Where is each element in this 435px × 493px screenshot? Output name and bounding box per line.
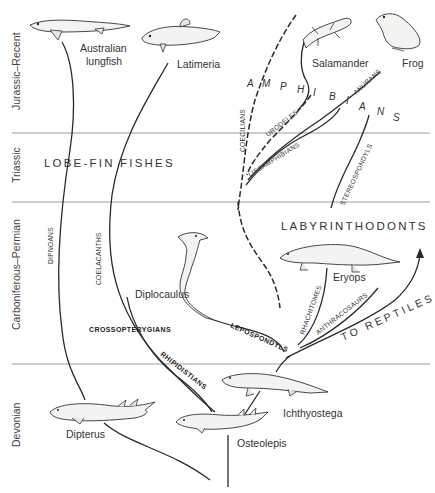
label-osteolepis: Osteolepis (237, 437, 287, 449)
label-coelacanths: COELACANTHS (95, 232, 102, 285)
diplocaulus-illustration (178, 233, 214, 320)
amphibians-letter: I (313, 87, 316, 98)
osteolepis-illustration (176, 408, 268, 433)
amphibians-letter: H (297, 84, 305, 95)
branch-coecilians (238, 15, 296, 210)
branch-salamander (298, 42, 309, 110)
label-diplocaulus: Diplocaulus (135, 288, 189, 300)
frog-illustration (376, 14, 420, 51)
amphibians-letter: A (358, 101, 366, 112)
label-dipterus: Dipterus (66, 428, 105, 440)
label-lepospondyls: LEPOSPONDYLS (230, 322, 290, 354)
arrow-head-icon (416, 248, 424, 258)
label-ichthyostega: Ichthyostega (283, 407, 343, 419)
amphibians-letter: P (280, 81, 287, 92)
amphibians-letter: B (329, 91, 336, 102)
era-label-triassic: Triassic (10, 147, 22, 183)
label-australian-lungfish-line1: Australian (80, 42, 127, 54)
amphibians-letter: N (377, 106, 385, 117)
label-salamander: Salamander (312, 57, 369, 69)
label-coecilians: COECILIANS (239, 109, 246, 152)
ichthyostega-illustration (222, 374, 328, 396)
branch-dipterus-root (104, 423, 210, 480)
label-lobe-fin-fishes: LOBE-FIN FISHES (44, 157, 175, 169)
label-dipnoans: DIPNOANS (47, 227, 54, 264)
dipterus-illustration (50, 399, 155, 424)
label-labyrinthodonts: LABYRINTHODONTS (281, 220, 428, 232)
label-eryops: Eryops (333, 271, 366, 283)
eryops-illustration (280, 245, 400, 272)
label-amphibians: A M P H I B I A N S (246, 78, 400, 123)
salamander-illustration (303, 18, 351, 48)
branch-dashed-lepospondyl (238, 202, 280, 308)
label-crossopterygians: CROSSOPTERYGIANS (89, 326, 171, 333)
label-rhipidistians: RHIPIDISTIANS (159, 350, 208, 390)
label-australian-lungfish-line2: lungfish (86, 55, 122, 67)
amphibians-letter: I (346, 95, 349, 106)
era-label-carboniferous-permian: Carboniferous–Permian (10, 219, 22, 330)
phylogeny-diagram: Jurassic–Recent Triassic Carboniferous–P… (0, 0, 435, 493)
australian-lungfish-illustration (30, 20, 130, 40)
latimeria-illustration (142, 19, 220, 52)
amphibians-letter: A (246, 78, 254, 89)
label-anurans: ANURANS (352, 67, 382, 95)
era-label-jurassic-recent: Jurassic–Recent (10, 32, 22, 110)
branch-dipnoans (59, 42, 85, 400)
label-latimeria: Latimeria (177, 58, 220, 70)
label-frog: Frog (402, 57, 424, 69)
era-label-devonian: Devonian (10, 402, 22, 447)
amphibians-letter: S (393, 112, 400, 123)
amphibians-letter: M (262, 78, 271, 89)
